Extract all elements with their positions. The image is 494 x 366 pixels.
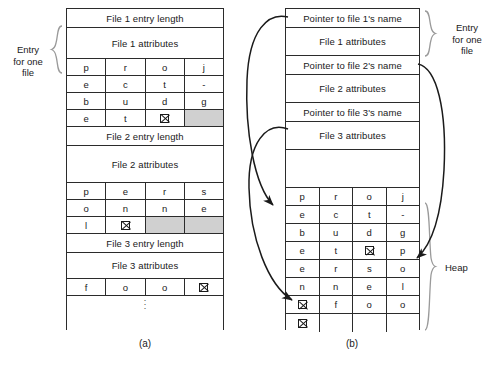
file3-attributes-row: File 3 attributes [67,253,223,279]
name-char: e [106,183,145,199]
heap-char: s [353,260,387,277]
heap-row: e t p [286,242,419,260]
heap-layout-table: Pointer to file 1's name File 1 attribut… [285,8,420,330]
name-terminator-cell [146,110,185,126]
heap-char: d [353,224,387,241]
heap-char: e [353,278,387,295]
name-char: o [67,200,106,216]
file2-name-row: o n n e [67,200,223,217]
brace-entry-right [425,11,436,56]
heap-label: Heap [445,262,485,274]
heap-char: b [286,224,320,241]
entry-label-line2: for one [444,34,490,46]
name-terminator-cell [106,217,145,233]
name-char: n [106,200,145,216]
null-terminator-icon [365,246,374,255]
entry-label-line2: for one [4,56,52,68]
file2-pointer-row: Pointer to file 2's name [286,56,419,75]
heap-terminator-cell [286,314,320,332]
entry-label-line3: file [444,45,490,57]
null-terminator-icon [160,114,169,123]
file1-attributes-row: File 1 attributes [286,28,419,56]
heap-char [353,314,387,332]
heap-char [320,314,354,332]
file1-attributes-label: File 1 attributes [286,28,419,55]
entry-label-line1: Entry [4,44,52,56]
caption-a: (a) [115,338,175,349]
name-terminator-cell [185,279,223,295]
name-char: e [185,200,223,216]
file1-name-row: e c t - [67,76,223,93]
name-char: t [146,76,185,92]
name-char: l [67,217,106,233]
padding-cell [146,217,185,233]
heap-terminator-cell [286,296,320,313]
file2-attributes-row: File 2 attributes [67,146,223,183]
name-char: j [185,59,223,75]
name-char: o [146,59,185,75]
name-char: t [106,110,145,126]
heap-row: f o o [286,296,419,314]
file1-name-row: b u d g [67,93,223,110]
heap-char: e [286,260,320,277]
file2-attributes-label: File 2 attributes [286,75,419,102]
heap-char: t [320,242,354,259]
file1-pointer-row: Pointer to file 1's name [286,9,419,28]
file3-entry-length-label: File 3 entry length [67,234,223,252]
file2-entry-length-label: File 2 entry length [67,127,223,145]
file1-name-row: p r o j [67,59,223,76]
heap-char: n [286,278,320,295]
brace-heap-right [425,203,436,330]
name-char: - [185,76,223,92]
heap-row [286,314,419,332]
file1-pointer-label: Pointer to file 1's name [286,9,419,27]
heap-char: - [387,206,420,223]
heap-char: c [320,206,354,223]
heap-row: e c t - [286,206,419,224]
file2-entry-length-row: File 2 entry length [67,127,223,146]
file3-pointer-label: Pointer to file 3's name [286,103,419,121]
vertical-ellipsis-icon: ... [125,296,165,308]
heap-row: n n e l [286,278,419,296]
file1-entry-length-row: File 1 entry length [67,9,223,28]
inline-layout-table: File 1 entry length File 1 attributes p … [66,8,224,330]
file2-attributes-label: File 2 attributes [67,146,223,182]
heap-char: e [286,206,320,223]
heap-char: o [353,296,387,313]
heap-char: o [387,260,420,277]
name-char: c [106,76,145,92]
name-char: d [146,93,185,109]
padding-cell [185,110,223,126]
heap-char: r [320,260,354,277]
file2-attributes-row: File 2 attributes [286,75,419,103]
file1-attributes-row: File 1 attributes [67,28,223,59]
file2-pointer-label: Pointer to file 2's name [286,56,419,74]
name-char: o [106,279,145,295]
file3-pointer-row: Pointer to file 3's name [286,103,419,122]
heap-char: e [286,242,320,259]
heap-char: o [353,188,387,205]
heap-char: o [387,296,420,313]
file3-attributes-label: File 3 attributes [67,253,223,278]
null-terminator-icon [298,300,307,309]
name-char: u [106,93,145,109]
name-char: b [67,93,106,109]
figure-root: File 1 entry length File 1 attributes p … [0,0,494,366]
heap-char: p [387,242,420,259]
name-char: s [185,183,223,199]
name-char: e [67,76,106,92]
entry-for-one-file-label-left: Entry for one file [4,44,52,79]
entry-for-one-file-label-right: Entry for one file [444,22,490,57]
file3-entry-length-row: File 3 entry length [67,234,223,253]
file1-name-row: e t [67,110,223,127]
name-char: f [67,279,106,295]
null-terminator-icon [298,319,307,328]
heap-row: b u d g [286,224,419,242]
heap-gap-row [286,150,419,188]
name-char: r [146,183,185,199]
name-char: n [146,200,185,216]
file2-name-row: l [67,217,223,234]
heap-row: e r s o [286,260,419,278]
heap-char: u [320,224,354,241]
file3-attributes-row: File 3 attributes [286,122,419,150]
